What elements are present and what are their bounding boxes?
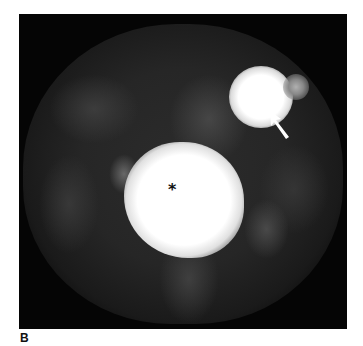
scan-image: * xyxy=(19,14,347,329)
panel-label: B xyxy=(20,331,29,345)
background-uptake xyxy=(39,154,99,254)
arrow-icon xyxy=(269,110,293,140)
adjacent-focus xyxy=(283,74,309,100)
background-uptake xyxy=(244,199,289,259)
background-uptake xyxy=(49,74,139,144)
asterisk-marker: * xyxy=(168,182,176,198)
